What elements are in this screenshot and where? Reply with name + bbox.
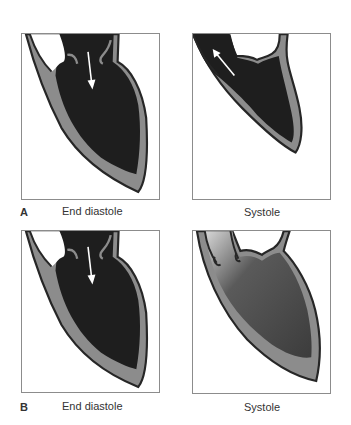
caption-a-end-diastole: End diastole: [62, 205, 123, 217]
heart-diastole-illustration: [22, 231, 159, 392]
row-letter-a: A: [20, 206, 28, 218]
caption-b-systole: Systole: [244, 401, 280, 413]
panel-a-systole: [192, 33, 331, 200]
panel-b-systole: [192, 230, 331, 394]
panel-b-end-diastole: [21, 230, 160, 393]
caption-b-end-diastole: End diastole: [62, 400, 123, 412]
heart-systole-illustration: [193, 231, 330, 393]
caption-a-systole: Systole: [244, 206, 280, 218]
heart-diastole-illustration: [22, 34, 159, 199]
row-letter-b: B: [20, 401, 28, 413]
panel-a-end-diastole: [21, 33, 160, 200]
heart-systole-illustration: [193, 34, 330, 199]
